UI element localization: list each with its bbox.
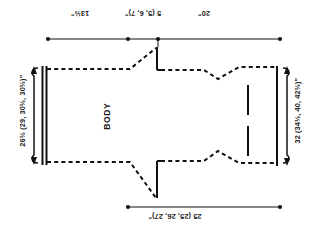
bottom-outline-dashed <box>47 151 277 198</box>
measurement-label-left-side: 26½ (29, 30½, 30½)" <box>19 60 26 162</box>
right-height-arrow <box>283 66 290 166</box>
top-outline-dashed <box>47 48 277 79</box>
measurement-label-top-left: 13½" <box>60 10 100 17</box>
neck-notch-bottom <box>157 161 163 198</box>
piece-label-body: BODY <box>103 93 112 139</box>
tick-dot-mid-a <box>126 37 130 41</box>
body-schematic-diagram: 13½" 5 (5, 6, 7)" 20" 25 (25, 26, 27)" 2… <box>0 0 323 233</box>
left-solid-edge <box>43 66 47 165</box>
measurement-label-bottom: 25 (25, 26, 27)" <box>140 213 210 220</box>
tick-dot-bottom-right <box>278 205 282 209</box>
neck-notch-top <box>157 47 163 70</box>
bottom-measurement-rule <box>126 205 282 209</box>
tick-dot-left <box>46 37 50 41</box>
tick-dot-bottom-left <box>126 205 130 209</box>
tick-dot-right <box>278 37 282 41</box>
top-measurement-rule <box>46 37 282 47</box>
measurement-label-top-middle: 5 (5, 6, 7)" <box>112 10 174 17</box>
left-height-arrow <box>31 66 38 165</box>
measurement-label-top-right: 20" <box>184 10 224 17</box>
schematic-linework <box>0 0 323 233</box>
measurement-label-right-side: 32 (34½, 40, 42½)" <box>294 60 301 162</box>
